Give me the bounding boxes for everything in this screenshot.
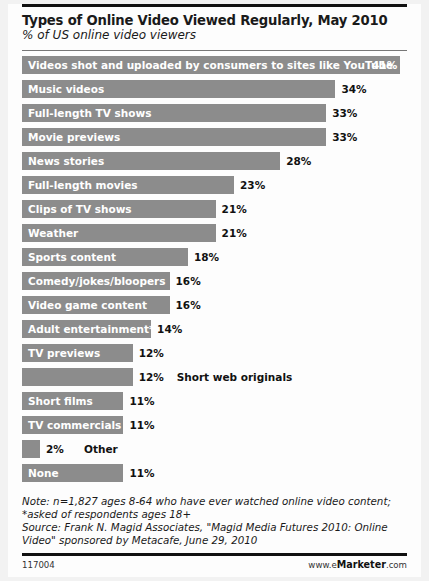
bar-row: Video game content16% xyxy=(22,296,407,314)
bar-value-label: 28% xyxy=(286,152,311,170)
bar-row: Clips of TV shows21% xyxy=(22,200,407,218)
footer: 117004 www.eMarketer.com xyxy=(22,556,407,570)
bar-value-label: 16% xyxy=(176,296,201,314)
bar-category-label: Music videos xyxy=(28,80,104,98)
bar-value-label: 18% xyxy=(194,248,219,266)
bar-category-label: News stories xyxy=(28,152,104,170)
chart-subtitle: % of US online video viewers xyxy=(22,29,407,43)
bar-value-label: 21% xyxy=(222,224,247,242)
bar-category-label: None xyxy=(28,464,59,482)
bar-row: None11% xyxy=(22,464,407,482)
bar-row: Short films11% xyxy=(22,392,407,410)
bar-row: Sports content18% xyxy=(22,248,407,266)
chart-card: Types of Online Video Viewed Regularly, … xyxy=(8,4,421,577)
bar-category-label: TV commercials xyxy=(28,416,121,434)
bar-category-label: Short web originals xyxy=(177,368,293,386)
bar-category-label: Weather xyxy=(28,224,78,242)
bar-category-label: Full-length TV shows xyxy=(28,104,151,122)
notes-block: Note: n=1,827 ages 8-64 who have ever wa… xyxy=(22,488,407,548)
source-line-2: Video" sponsored by Metacafe, June 29, 2… xyxy=(22,534,407,547)
bar xyxy=(22,440,40,458)
chart-id: 117004 xyxy=(22,560,55,570)
bar-row: Music videos34% xyxy=(22,80,407,98)
source-line-1: Source: Frank N. Magid Associates, "Magi… xyxy=(22,521,407,534)
bar-row: Movie previews33% xyxy=(22,128,407,146)
bar-category-label: Clips of TV shows xyxy=(28,200,132,218)
bar-category-label: Movie previews xyxy=(28,128,120,146)
emarketer-brand: www.eMarketer.com xyxy=(308,559,407,570)
bar-row: News stories28% xyxy=(22,152,407,170)
bar-category-label: Videos shot and uploaded by consumers to… xyxy=(28,56,393,74)
bar-category-label: Sports content xyxy=(28,248,116,266)
bar-category-label: Adult entertainment* xyxy=(28,320,155,338)
bar-value-label: 12% xyxy=(139,368,164,386)
bar-row: Full-length TV shows33% xyxy=(22,104,407,122)
bar-value-label: 33% xyxy=(332,128,357,146)
bar-row: Weather21% xyxy=(22,224,407,242)
bar-value-label: 41% xyxy=(372,56,397,74)
bar-category-label: Comedy/jokes/bloopers xyxy=(28,272,166,290)
bar-category-label: Video game content xyxy=(28,296,147,314)
bar xyxy=(22,368,133,386)
bar-category-label: TV previews xyxy=(28,344,100,362)
bar-chart-plot-area: Videos shot and uploaded by consumers to… xyxy=(22,51,407,482)
bar-value-label: 33% xyxy=(332,104,357,122)
bar-category-label: Other xyxy=(84,440,118,458)
bar-row: Videos shot and uploaded by consumers to… xyxy=(22,56,407,74)
bar-row: TV commercials11% xyxy=(22,416,407,434)
bar-category-label: Short films xyxy=(28,392,93,410)
bar-row: TV previews12% xyxy=(22,344,407,362)
bar-value-label: 23% xyxy=(240,176,265,194)
bar-value-label: 16% xyxy=(176,272,201,290)
bar-value-label: 11% xyxy=(129,464,154,482)
bar-row: Adult entertainment*14% xyxy=(22,320,407,338)
bar-value-label: 34% xyxy=(341,80,366,98)
bar-value-label: 11% xyxy=(129,392,154,410)
page-title: Types of Online Video Viewed Regularly, … xyxy=(22,13,407,28)
bar-category-label: Full-length movies xyxy=(28,176,138,194)
bar-row: 12%Short web originals xyxy=(22,368,407,386)
bar-row: 2%Other xyxy=(22,440,407,458)
bar-row: Comedy/jokes/bloopers16% xyxy=(22,272,407,290)
bar-value-label: 2% xyxy=(46,440,64,458)
bar-row: Full-length movies23% xyxy=(22,176,407,194)
title-block: Types of Online Video Viewed Regularly, … xyxy=(22,7,407,50)
note-line-1: Note: n=1,827 ages 8-64 who have ever wa… xyxy=(22,495,407,508)
bar-value-label: 11% xyxy=(129,416,154,434)
bar-value-label: 14% xyxy=(157,320,182,338)
bar-value-label: 21% xyxy=(222,200,247,218)
bar-value-label: 12% xyxy=(139,344,164,362)
note-line-2: *asked of respondents ages 18+ xyxy=(22,508,407,521)
